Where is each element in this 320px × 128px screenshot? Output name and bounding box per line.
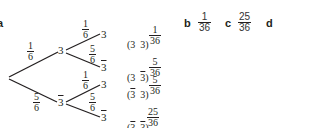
leaf-3bar-3bar: 3 xyxy=(101,112,107,123)
part-c-label: c xyxy=(225,17,231,29)
leaf-3-3bar: 3 xyxy=(101,62,107,73)
part-d-label: d xyxy=(266,17,273,29)
result-1: 136 xyxy=(149,25,161,46)
node-3: 3 xyxy=(58,45,64,56)
outcome-row-1: (3 3) xyxy=(122,30,149,50)
part-b-answer: 136 xyxy=(198,12,211,33)
leaf-3-3: 3 xyxy=(101,29,107,40)
outcome-row-4: (3 3) xyxy=(122,113,149,128)
result-4: 2536 xyxy=(147,107,159,128)
prob-3-3: 16 xyxy=(82,19,89,40)
prob-root-3: 16 xyxy=(27,41,34,62)
node-3bar: 3 xyxy=(58,97,64,108)
outcome-row-3: (3 3) xyxy=(122,80,149,100)
result-3: 536 xyxy=(149,75,161,96)
leaf-3bar-3: 3 xyxy=(101,79,107,90)
prob-3bar-3bar: 56 xyxy=(89,92,96,113)
prob-3-3bar: 56 xyxy=(89,44,96,65)
part-b-label: b xyxy=(184,17,191,29)
part-c-answer: 2536 xyxy=(238,12,251,33)
prob-3bar-3: 16 xyxy=(82,70,89,91)
prob-root-3bar: 56 xyxy=(33,92,40,113)
